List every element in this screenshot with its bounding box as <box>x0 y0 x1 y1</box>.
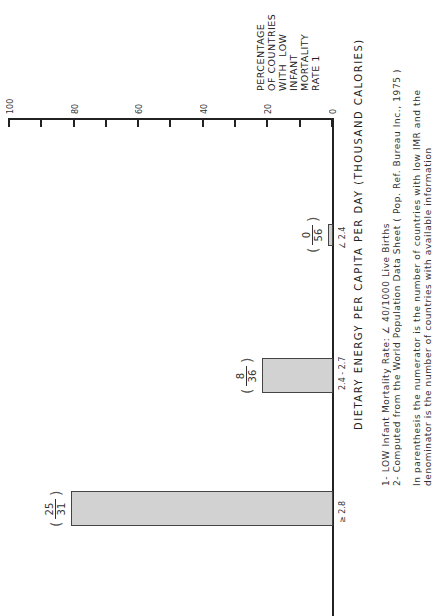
footnote-2: 2- Computed from the World Population Da… <box>392 69 402 486</box>
y-tick <box>266 118 268 127</box>
y-tick-label: 100 <box>6 84 15 114</box>
y-tick <box>105 118 107 127</box>
y-tick-label: 80 <box>71 84 80 114</box>
y-tick <box>299 118 301 127</box>
y-tick <box>331 118 333 127</box>
y-tick <box>8 118 10 127</box>
paren-left: ( <box>239 389 255 394</box>
y-tick <box>40 118 42 127</box>
category-label: 2.4 - 2.7 <box>338 357 347 390</box>
y-tick-label: 40 <box>200 84 209 114</box>
y-tick <box>73 118 75 127</box>
category-label: ≥ 2.8 <box>338 501 347 523</box>
footnote-4: denominator is the number of countries w… <box>423 147 433 486</box>
y-tick-label: 60 <box>135 84 144 114</box>
y-tick <box>202 118 204 127</box>
y-axis-line <box>10 118 333 120</box>
chart-canvas: 100806040200 PERCENTAGE OF COUNTRIES WIT… <box>0 0 439 616</box>
paren-right: ) <box>239 358 255 363</box>
y-tick <box>137 118 139 127</box>
y-tick <box>234 118 236 127</box>
paren-right: ) <box>48 491 64 496</box>
footnote-1: 1- LOW Infant Mortality Rate: ∠ 40/1000 … <box>381 223 391 486</box>
bar <box>328 224 333 246</box>
paren-right: ) <box>305 217 321 222</box>
paren-left: ( <box>48 522 64 527</box>
footnote-3: In parenthesis the numerator is the numb… <box>412 89 422 486</box>
category-label: ∠ 2.4 <box>338 227 347 249</box>
x-axis-title: DIETARY ENERGY PER CAPITA PER DAY (THOUS… <box>353 38 364 430</box>
paren-left: ( <box>305 248 321 253</box>
y-tick <box>170 118 172 127</box>
bar <box>71 492 333 527</box>
y-tick-label: 0 <box>329 84 338 114</box>
y-axis-title: PERCENTAGE OF COUNTRIES WITH LOW INFANT … <box>255 14 321 91</box>
bar <box>262 359 333 394</box>
